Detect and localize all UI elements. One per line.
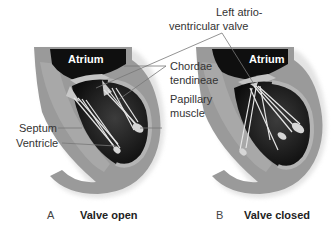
heart-valve-diagram	[0, 0, 336, 235]
atrium-label-b: Atrium	[249, 53, 284, 65]
papillary-label-line2: muscle	[170, 107, 205, 119]
ventricle-label: Ventricle	[16, 137, 58, 149]
papillary-label-line1: Papillary	[170, 93, 212, 105]
septum-label: Septum	[19, 122, 57, 134]
chordae-label-line2: tendineae	[170, 74, 218, 86]
panel-b-letter: B	[216, 209, 223, 221]
chordae-label-line1: Chordae	[170, 60, 212, 72]
panel-a-letter: A	[47, 209, 54, 221]
panel-b-heart	[196, 47, 327, 198]
av-valve-label-line2: ventricular valve	[169, 20, 248, 32]
av-valve-label-line1: Left atrio-	[216, 6, 262, 18]
atrium-label-a: Atrium	[68, 53, 103, 65]
panel-b-title: Valve closed	[244, 209, 310, 221]
panel-a-title: Valve open	[80, 209, 137, 221]
